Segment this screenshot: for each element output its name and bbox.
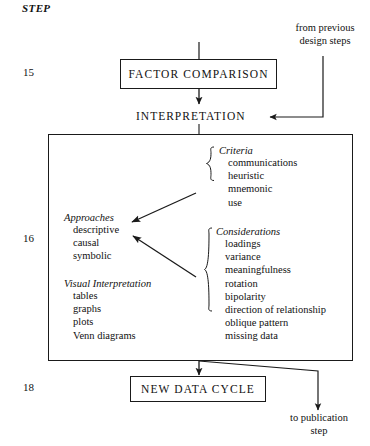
to-publication-line-2: step <box>272 425 366 438</box>
node-factor-comparison-label: FACTOR COMPARISON <box>128 68 268 80</box>
node-new-data-cycle[interactable]: NEW DATA CYCLE <box>130 376 266 402</box>
list-item: graphs <box>73 302 151 315</box>
list-item: rotation <box>225 277 326 290</box>
list-item: heuristic <box>228 169 297 182</box>
list-item: causal <box>73 236 119 249</box>
group-approaches: Approaches descriptive causal symbolic <box>64 212 119 263</box>
step-column-header: STEP <box>22 2 51 14</box>
group-criteria-items: communications heuristic mnemonic use <box>219 156 297 209</box>
from-previous-line-2: design steps <box>283 35 367 48</box>
list-item: descriptive <box>73 223 119 236</box>
from-previous-line-1: from previous <box>283 22 367 35</box>
list-item: tables <box>73 289 151 302</box>
group-criteria: Criteria communications heuristic mnemon… <box>219 145 297 209</box>
flowchart-diagram: STEP 15 16 18 from previous design steps… <box>0 0 370 446</box>
group-visual-interpretation: Visual Interpretation tables graphs plot… <box>64 278 151 342</box>
list-item: bipolarity <box>225 290 326 303</box>
step-number-16: 16 <box>8 232 34 244</box>
list-item: Venn diagrams <box>73 329 151 342</box>
group-criteria-title: Criteria <box>219 145 297 156</box>
step-number-18: 18 <box>8 381 34 393</box>
list-item: missing data <box>225 329 326 342</box>
annotation-to-publication-step: to publication step <box>272 412 366 437</box>
list-item: mnemonic <box>228 182 297 195</box>
list-item: variance <box>225 250 326 263</box>
list-item: loadings <box>225 237 326 250</box>
node-new-data-cycle-label: NEW DATA CYCLE <box>141 383 255 395</box>
group-approaches-items: descriptive causal symbolic <box>64 223 119 263</box>
node-factor-comparison[interactable]: FACTOR COMPARISON <box>120 59 277 89</box>
to-publication-line-1: to publication <box>272 412 366 425</box>
arrow-from-previous-design-steps <box>270 56 323 117</box>
list-item: use <box>228 196 297 209</box>
list-item: oblique pattern <box>225 316 326 329</box>
node-interpretation[interactable]: INTERPRETATION <box>136 110 246 122</box>
group-considerations: Considerations loadings variance meaning… <box>216 226 326 343</box>
list-item: direction of relationship <box>225 303 326 316</box>
group-considerations-items: loadings variance meaningfulness rotatio… <box>216 237 326 343</box>
list-item: symbolic <box>73 249 119 262</box>
node-interpretation-label: INTERPRETATION <box>136 110 246 122</box>
list-item: plots <box>73 315 151 328</box>
list-item: communications <box>228 156 297 169</box>
group-visual-interpretation-title: Visual Interpretation <box>64 278 151 289</box>
step-number-15: 15 <box>8 66 34 78</box>
annotation-from-previous-design-steps: from previous design steps <box>283 22 367 47</box>
list-item: meaningfulness <box>225 263 326 276</box>
group-approaches-title: Approaches <box>64 212 119 223</box>
group-visual-interpretation-items: tables graphs plots Venn diagrams <box>64 289 151 342</box>
group-considerations-title: Considerations <box>216 226 326 237</box>
